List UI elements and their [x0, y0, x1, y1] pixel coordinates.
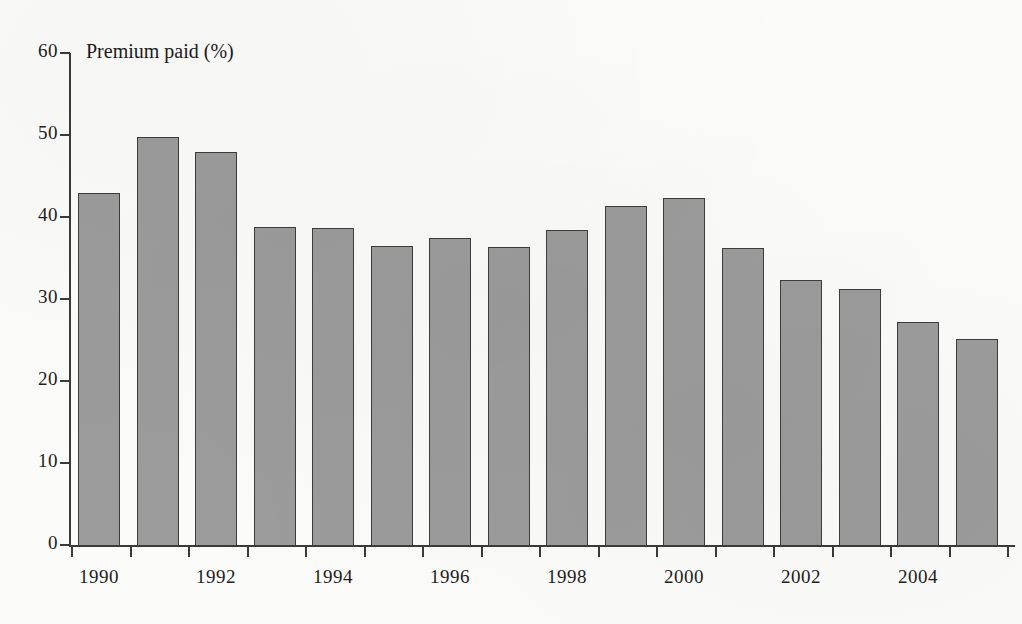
bar-2005 [956, 339, 998, 546]
bar-1990 [78, 193, 120, 546]
x-tick-mark [656, 546, 658, 557]
x-tick-mark [247, 546, 249, 557]
y-tick-label: 0 [14, 532, 58, 554]
x-tick-label-2002: 2002 [781, 566, 821, 588]
y-tick-label: 50 [14, 122, 58, 144]
x-tick-mark [715, 546, 717, 557]
chart-title: Premium paid (%) [86, 40, 234, 63]
bar-1998 [546, 230, 588, 546]
y-tick-mark [60, 462, 70, 464]
x-tick-mark [539, 546, 541, 557]
bar-2003 [839, 289, 881, 546]
x-tick-mark [71, 546, 73, 557]
y-tick-label: 30 [14, 286, 58, 308]
bar-1993 [254, 227, 296, 546]
x-tick-mark [364, 546, 366, 557]
bar-2004 [897, 322, 939, 546]
y-tick-mark [60, 52, 70, 54]
bar-1992 [195, 152, 237, 546]
x-tick-mark [598, 546, 600, 557]
x-tick-label-1992: 1992 [196, 566, 236, 588]
x-tick-mark [1007, 546, 1009, 557]
bar-2002 [780, 280, 822, 546]
y-tick-mark [60, 134, 70, 136]
x-tick-mark [890, 546, 892, 557]
y-tick-mark [60, 298, 70, 300]
x-tick-label-1994: 1994 [313, 566, 353, 588]
bar-2001 [722, 248, 764, 546]
y-tick-mark [60, 380, 70, 382]
x-tick-mark [305, 546, 307, 557]
x-tick-mark [773, 546, 775, 557]
bar-chart: Premium paid (%) 0102030405060 199019921… [0, 0, 1022, 624]
bar-1991 [137, 137, 179, 546]
bar-1999 [605, 206, 647, 546]
y-tick-label: 20 [14, 368, 58, 390]
x-tick-label-2000: 2000 [664, 566, 704, 588]
x-tick-label-1990: 1990 [79, 566, 119, 588]
x-tick-label-1996: 1996 [430, 566, 470, 588]
y-tick-mark [60, 544, 70, 546]
bar-1994 [312, 228, 354, 546]
chart-page: Premium paid (%) 0102030405060 199019921… [0, 0, 1022, 624]
bar-1997 [488, 247, 530, 546]
bar-2000 [663, 198, 705, 546]
y-tick-label: 10 [14, 450, 58, 472]
y-axis-line [69, 53, 71, 547]
x-tick-mark [188, 546, 190, 557]
y-tick-mark [60, 216, 70, 218]
x-tick-mark [130, 546, 132, 557]
x-tick-label-2004: 2004 [898, 566, 938, 588]
bar-1996 [429, 238, 471, 547]
x-tick-mark [949, 546, 951, 557]
x-tick-mark [481, 546, 483, 557]
bar-1995 [371, 246, 413, 546]
y-tick-label: 60 [14, 40, 58, 62]
x-tick-label-1998: 1998 [547, 566, 587, 588]
x-tick-mark [832, 546, 834, 557]
y-tick-label: 40 [14, 204, 58, 226]
x-tick-mark [422, 546, 424, 557]
